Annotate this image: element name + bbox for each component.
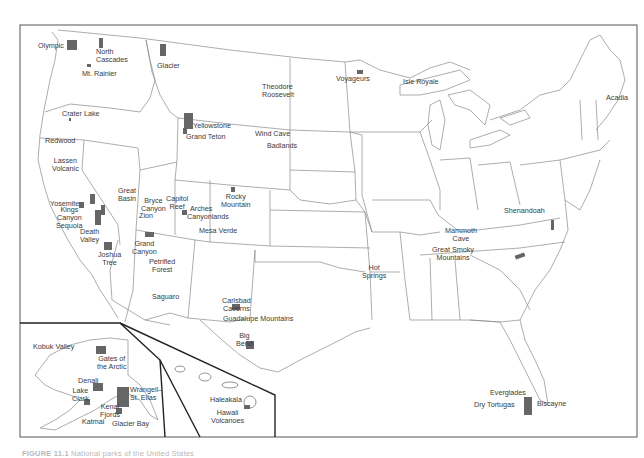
- label-lake-clark: Lake Clark: [72, 387, 89, 403]
- label-voyageurs: Voyageurs: [336, 75, 370, 83]
- label-katmai: Katmai: [82, 418, 104, 426]
- label-isle-royale: Isle Royale: [403, 78, 439, 86]
- label-carlsbad-caverns: Carlsbad Caverns: [222, 297, 251, 313]
- label-kobuk-valley: Kobuk Valley: [33, 343, 74, 351]
- label-canyonlands: Canyonlands: [187, 213, 229, 221]
- label-badlands: Badlands: [267, 142, 297, 150]
- label-theodore-roosevelt: Theodore Roosevelt: [262, 83, 294, 99]
- label-rocky-mountain: Rocky Mountain: [221, 193, 251, 209]
- label-death-valley: Death Valley: [80, 228, 99, 244]
- label-everglades: Everglades: [490, 389, 526, 397]
- label-glacier-bay: Glacier Bay: [112, 420, 149, 428]
- label-mammoth-cave: Mammoth Cave: [445, 227, 477, 243]
- label-denali: Denali: [78, 377, 98, 385]
- label-mt-rainier: Mt. Rainier: [82, 70, 117, 78]
- label-saguaro: Saguaro: [152, 293, 179, 301]
- label-hawaii-volcanoes: Hawaii Volcanoes: [211, 409, 244, 425]
- label-capitol-reef: Capitol Reef: [166, 195, 188, 211]
- figure-number: FIGURE 11.1: [22, 449, 69, 458]
- label-acadia: Acadia: [606, 94, 628, 102]
- label-crater-lake: Crater Lake: [62, 110, 100, 118]
- label-lassen-volcanic: Lassen Volcanic: [52, 157, 79, 173]
- label-grand-teton: Grand Teton: [186, 133, 225, 141]
- label-joshua-tree: Joshua Tree: [98, 251, 121, 267]
- label-zion: Zion: [139, 212, 153, 220]
- label-redwood: Redwood: [45, 137, 75, 145]
- figure-caption: FIGURE 11.1 National parks of the United…: [22, 449, 194, 458]
- label-hot-springs: Hot Springs: [362, 264, 386, 280]
- label-glacier: Glacier: [157, 62, 180, 70]
- label-gates-of-the-arctic: Gates of the Arctic: [97, 355, 127, 371]
- label-sequoia: Sequoia: [56, 222, 82, 230]
- label-kings-canyon: Kings Canyon: [57, 206, 82, 222]
- label-mesa-verde: Mesa Verde: [199, 227, 237, 235]
- label-grand-canyon: Grand Canyon: [132, 240, 157, 256]
- label-shenandoah: Shenandoah: [504, 207, 545, 215]
- label-guadalupe-mountains: Guadalupe Mountains: [223, 315, 293, 323]
- label-biscayne: Biscayne: [537, 400, 566, 408]
- label-big-bend: Big Bend: [236, 332, 253, 348]
- map-frame-border: [20, 25, 637, 437]
- label-olympic: Olympic: [38, 42, 64, 50]
- label-dry-tortugas: Dry Tortugas: [474, 401, 515, 409]
- label-great-basin: Great Basin: [118, 187, 136, 203]
- label-petrified-forest: Petrified Forest: [149, 258, 175, 274]
- label-north-cascades: North Cascades: [96, 48, 128, 64]
- label-wind-cave: Wind Cave: [255, 130, 290, 138]
- label-great-smoky-mountains: Great Smoky Mountains: [432, 246, 474, 262]
- label-yellowstone: Yellowstone: [193, 122, 231, 130]
- label-haleakala: Haleakala: [210, 396, 242, 404]
- label-wrangell-st-elias: Wrangell– St. Elias: [130, 386, 162, 402]
- figure-caption-text: National parks of the United States: [71, 449, 194, 458]
